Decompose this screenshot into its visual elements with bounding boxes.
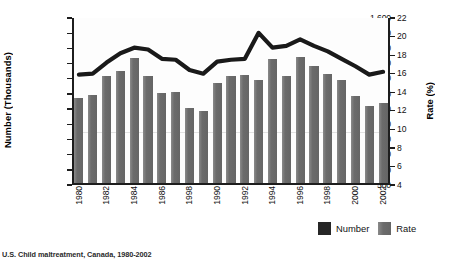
y-axis-right-tick bbox=[390, 55, 395, 56]
y-axis-right-tick-label: 12 bbox=[397, 106, 419, 115]
y-axis-right-tick bbox=[390, 73, 395, 74]
chart-legend: NumberRate bbox=[318, 222, 416, 235]
y-axis-right-line bbox=[388, 18, 390, 185]
chart-figure: Number (Thousands) Rate (%) 1,6001,5001,… bbox=[0, 0, 470, 260]
legend-swatch-icon bbox=[318, 222, 331, 235]
y-axis-right-tick-label: 14 bbox=[397, 88, 419, 97]
y-axis-right-tick-label: 10 bbox=[397, 125, 419, 134]
y-axis-left-title: Number (Thousands) bbox=[2, 52, 16, 148]
legend-item: Number bbox=[318, 222, 369, 235]
legend-label: Rate bbox=[396, 223, 416, 234]
y-axis-right-tick-label: 8 bbox=[397, 144, 419, 153]
x-axis-tick-label: 1982 bbox=[102, 186, 111, 205]
y-axis-left-line bbox=[72, 18, 74, 185]
x-axis-tick-label: 1990 bbox=[213, 186, 222, 205]
x-axis-tick-label: 1992 bbox=[241, 186, 250, 205]
y-axis-right-tick-label: 6 bbox=[397, 162, 419, 171]
y-axis-right-tick-label: 16 bbox=[397, 69, 419, 78]
legend-item: Rate bbox=[378, 222, 416, 235]
y-axis-right-tick bbox=[390, 110, 395, 111]
y-axis-right-tick-label: 4 bbox=[397, 181, 419, 190]
y-axis-right-tick-label: 22 bbox=[397, 14, 419, 23]
y-axis-right-tick bbox=[390, 92, 395, 93]
figure-caption: U.S. Child maltreatment, Canada, 1980-20… bbox=[2, 250, 302, 260]
y-axis-right-tick-label: 18 bbox=[397, 51, 419, 60]
line-series bbox=[72, 18, 390, 185]
y-axis-right-tick bbox=[390, 147, 395, 148]
y-axis-right-tick bbox=[390, 36, 395, 37]
y-axis-right-title: Rate (%) bbox=[424, 82, 435, 120]
y-axis-right-tick bbox=[390, 129, 395, 130]
x-axis-tick-label: 1994 bbox=[268, 186, 277, 205]
x-axis-tick-label: 1996 bbox=[296, 186, 305, 205]
x-axis-tick-label: 1998 bbox=[323, 186, 332, 205]
plot-area bbox=[72, 18, 390, 185]
x-axis-tick-label: 1986 bbox=[158, 186, 167, 205]
x-axis-labels: 1980198219841986199819901992199419961998… bbox=[72, 186, 390, 226]
x-axis-tick-label: 2000 bbox=[351, 186, 360, 205]
legend-label: Number bbox=[336, 223, 369, 234]
y-axis-right-tick bbox=[390, 17, 395, 18]
y-axis-right-tick bbox=[390, 184, 395, 185]
x-axis-tick-label: 1984 bbox=[130, 186, 139, 205]
x-axis-tick-label: 2002 bbox=[379, 186, 388, 205]
x-axis-tick-label: 1980 bbox=[75, 186, 84, 205]
legend-swatch-icon bbox=[378, 222, 391, 235]
x-axis-tick-label: 1998 bbox=[185, 186, 194, 205]
y-axis-right-tick bbox=[390, 166, 395, 167]
x-axis-line bbox=[72, 183, 390, 185]
y-axis-right-tick-label: 20 bbox=[397, 32, 419, 41]
